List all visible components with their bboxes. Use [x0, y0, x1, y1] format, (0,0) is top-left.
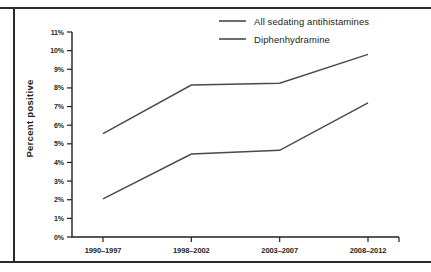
y-tick-label: 4%	[54, 159, 65, 166]
x-axis-ticks: 1990–19971998–20022003–20072008–2012	[85, 237, 399, 255]
y-tick-label: 10%	[50, 47, 65, 54]
y-tick-label: 8%	[54, 84, 65, 91]
y-tick-label: 9%	[54, 66, 65, 73]
y-tick-label: 7%	[54, 103, 65, 110]
series-lines	[103, 54, 368, 198]
figure-panel: Percent positive 0%1%2%3%4%5%6%7%8%9%10%…	[0, 0, 431, 272]
legend-label-1: All sedating antihistamines	[254, 16, 369, 27]
y-axis-ticks: 0%1%2%3%4%5%6%7%8%9%10%11%	[50, 29, 72, 241]
x-tick-label: 1990–1997	[85, 246, 122, 255]
series-line-1	[103, 54, 368, 133]
y-tick-label: 6%	[54, 122, 65, 129]
y-tick-label: 1%	[54, 215, 65, 222]
x-tick-label: 1998–2002	[173, 246, 210, 255]
y-tick-label: 0%	[54, 234, 65, 241]
y-tick-label: 5%	[54, 140, 65, 147]
y-tick-label: 3%	[54, 178, 65, 185]
x-tick-label: 2008–2012	[350, 246, 387, 255]
series-line-2	[103, 103, 368, 199]
axis-lines	[72, 32, 399, 237]
y-tick-label: 11%	[51, 29, 65, 36]
y-tick-label: 2%	[54, 196, 65, 203]
chart-legend: All sedating antihistaminesDiphenhydrami…	[219, 16, 369, 45]
legend-label-2: Diphenhydramine	[254, 34, 330, 45]
x-tick-label: 2003–2007	[261, 246, 298, 255]
line-chart: 0%1%2%3%4%5%6%7%8%9%10%11% 1990–19971998…	[0, 0, 431, 272]
